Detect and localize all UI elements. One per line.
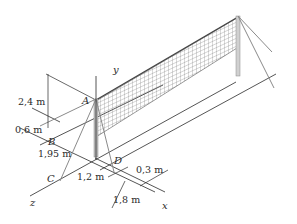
dim-height-A: 2,4 m xyxy=(18,96,45,107)
dim-x: 1,8 m xyxy=(113,194,140,205)
dim-dist-B: 1,95 m xyxy=(38,148,71,159)
point-C-label: C xyxy=(47,173,55,184)
y-axis-label: y xyxy=(112,64,119,75)
dim-C-D: 1,2 m xyxy=(77,171,104,182)
point-A-label: A xyxy=(81,95,89,106)
point-D-label: D xyxy=(113,155,122,166)
diagram-svg: y A B C D z x 2,4 m 0,6 m 1,95 m 1,2 m 0… xyxy=(0,0,297,224)
net xyxy=(96,17,238,137)
net-diagram: y A B C D z x 2,4 m 0,6 m 1,95 m 1,2 m 0… xyxy=(0,0,297,224)
z-axis-label: z xyxy=(29,197,36,208)
point-B-label: B xyxy=(47,136,55,147)
dim-offset-D: 0,3 m xyxy=(136,164,163,175)
x-axis-label: x xyxy=(162,200,168,211)
dim-offset-B: 0,6 m xyxy=(15,124,42,135)
pole-far xyxy=(236,16,240,76)
